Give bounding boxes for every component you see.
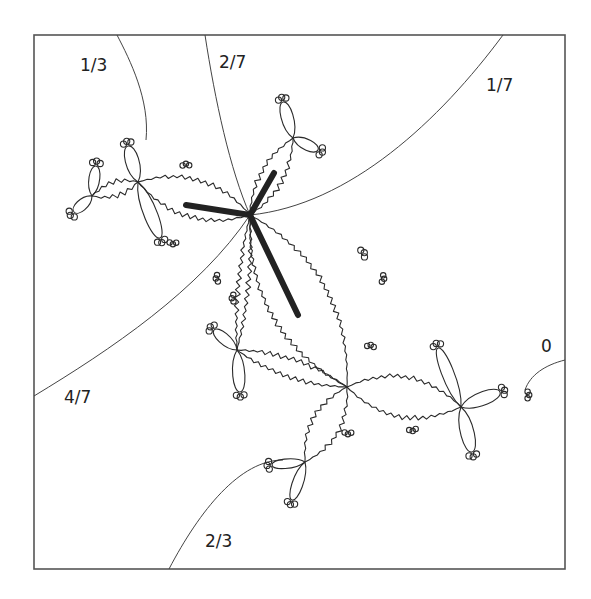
julia-boundary (234, 215, 250, 350)
external-ray (169, 460, 283, 569)
julia-bud (66, 208, 72, 214)
julia-bud (67, 212, 73, 218)
plot-frame (34, 35, 565, 569)
ray-label-ray-2-7: 2/7 (219, 52, 246, 72)
julia-set-diagram: 1/32/71/74/72/30 (0, 0, 591, 599)
julia-bud (361, 254, 367, 260)
julia-bud (233, 392, 239, 398)
ray-label-ray-1-7: 1/7 (486, 75, 513, 95)
ray-label-ray-4-7: 4/7 (64, 387, 91, 407)
julia-bud (154, 239, 160, 245)
julia-bud (501, 391, 507, 397)
julia-lobe (436, 348, 461, 407)
julia-bud (527, 392, 532, 397)
external-ray (250, 35, 503, 215)
julia-bud (128, 139, 134, 145)
julia-bud (365, 343, 370, 348)
external-ray (117, 35, 147, 140)
julia-bud (349, 430, 354, 435)
julia-lobe (280, 102, 295, 138)
julia-bud (90, 159, 96, 165)
ray-label-ray-0: 0 (541, 336, 552, 356)
external-ray (525, 360, 565, 390)
external-ray (34, 215, 250, 396)
julia-bud (231, 292, 236, 297)
julia-bud (214, 272, 219, 277)
ray-label-ray-1-3: 1/3 (80, 55, 107, 75)
julia-boundary (237, 350, 347, 387)
julia-bud (466, 453, 472, 459)
julia-lobe (73, 196, 92, 213)
julia-bud (437, 341, 443, 347)
julia-bud (187, 163, 192, 168)
julia-bud (174, 240, 179, 245)
julia-lobe (124, 146, 140, 182)
spider-leg (186, 205, 250, 215)
julia-bud (206, 328, 212, 334)
julia-bud (407, 427, 412, 432)
julia-lobe (459, 407, 476, 452)
julia-bud (525, 389, 530, 394)
external-rays (34, 35, 565, 569)
julia-boundary (138, 182, 250, 222)
ray-label-ray-2-3: 2/3 (205, 531, 232, 551)
julia-set (66, 94, 532, 508)
julia-lobe (138, 182, 162, 238)
julia-bud (71, 214, 77, 220)
ray-labels: 1/32/71/74/72/30 (64, 52, 552, 551)
julia-bud (207, 324, 213, 330)
julia-bud (283, 95, 289, 101)
julia-bud (211, 322, 217, 328)
julia-lobe (232, 350, 244, 392)
julia-bud (525, 396, 530, 401)
julia-lobe (293, 137, 318, 152)
julia-lobe (213, 329, 237, 350)
julia-lobe (461, 389, 500, 408)
julia-boundary (237, 350, 347, 387)
